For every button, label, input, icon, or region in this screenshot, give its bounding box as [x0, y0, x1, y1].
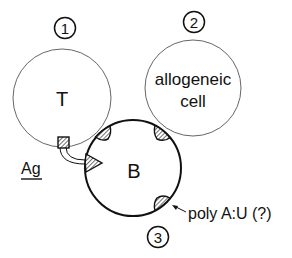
arrow-head-icon	[172, 205, 178, 210]
polyau-annotation: poly A:U (?)	[172, 205, 272, 222]
cell-interaction-diagram: T 1 allogeneic cell 2 B	[0, 0, 292, 258]
t-cell-label: T	[56, 88, 68, 110]
t-cell: T	[13, 49, 111, 147]
antigen-square-icon	[58, 137, 69, 148]
receptor-upper-left-icon	[96, 126, 111, 140]
diagram-canvas: T 1 allogeneic cell 2 B	[0, 0, 292, 258]
receptor-upper-right-icon	[154, 126, 170, 141]
number-3-label: 3	[154, 229, 162, 246]
antigen-bridge-inner	[66, 147, 85, 160]
number-2-label: 2	[190, 14, 198, 31]
antigen-presentation	[58, 137, 85, 164]
b-cell-label: B	[127, 160, 140, 182]
antigen-label: Ag	[21, 160, 41, 177]
allogeneic-cell: allogeneic cell	[145, 40, 241, 136]
allogeneic-cell-label-line1: allogeneic	[155, 70, 232, 89]
antigen-label-group: Ag	[21, 160, 42, 179]
antigen-bridge-outer	[60, 147, 85, 164]
allogeneic-cell-label-line2: cell	[180, 92, 206, 111]
receptor-polyau-icon	[154, 196, 170, 211]
number-2-badge: 2	[184, 12, 205, 33]
number-1-badge: 1	[55, 18, 76, 39]
number-1-label: 1	[61, 20, 69, 37]
number-3-badge: 3	[148, 227, 169, 248]
polyau-label: poly A:U (?)	[188, 205, 272, 222]
